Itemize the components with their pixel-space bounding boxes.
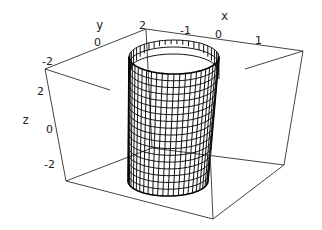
box-edge-back-bottom-left <box>66 148 152 181</box>
y-tick-label: 2 <box>139 19 146 32</box>
cylinder-3d-plot: y x z -2 0 2 -1 0 1 2 0 -2 <box>0 0 322 230</box>
box-edge-top-front-left <box>45 69 110 90</box>
z-axis-label: z <box>22 113 29 127</box>
box-edge-top-front-right <box>245 51 303 69</box>
mesh-vertical <box>192 71 201 193</box>
mesh-vertical <box>128 57 129 181</box>
x-axis-label: x <box>221 9 228 23</box>
mesh-inner-ring <box>129 47 219 64</box>
x-tick-label: -1 <box>180 24 191 37</box>
y-axis-label: y <box>96 18 103 32</box>
y-tick-label: -2 <box>42 55 53 68</box>
cylinder-mesh-surface <box>128 40 219 196</box>
z-tick-label: 2 <box>37 85 44 98</box>
box-edge-bottom-front-right <box>213 165 284 219</box>
z-tick-label: 0 <box>46 123 53 136</box>
box-edge-front-vertical <box>210 150 213 219</box>
box-edge-right-vertical <box>284 51 303 165</box>
x-tick-label: 0 <box>215 28 222 41</box>
bounding-box-front-edges <box>45 29 303 219</box>
z-tick-label: -2 <box>44 158 55 171</box>
x-tick-label: 1 <box>255 34 262 47</box>
y-tick-label: 0 <box>94 36 101 49</box>
mesh-vertical <box>188 72 197 194</box>
mesh-vertical <box>131 64 132 187</box>
